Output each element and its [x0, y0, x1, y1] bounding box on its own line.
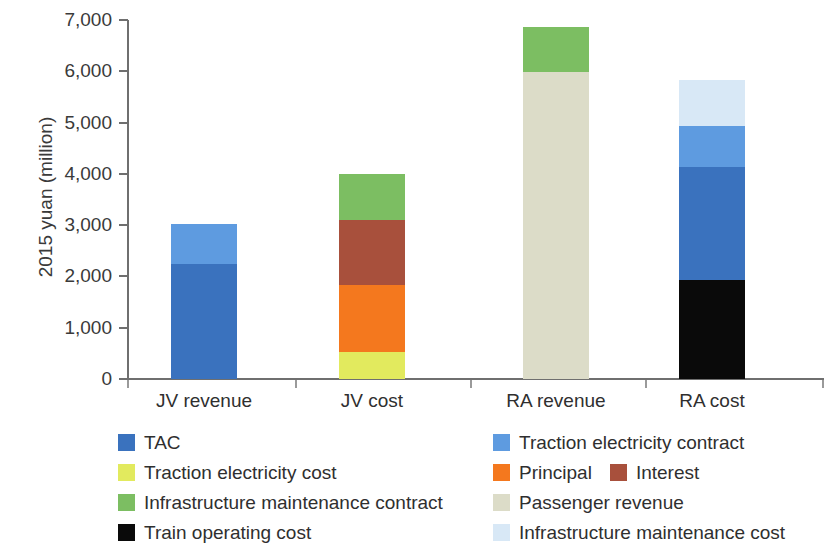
- legend-row-right: PrincipalInterest: [493, 458, 717, 487]
- legend-label: Traction electricity contract: [519, 433, 744, 452]
- legend-entry-traction-electricity-cost[interactable]: Traction electricity cost: [118, 463, 337, 482]
- legend-label: Train operating cost: [144, 523, 311, 542]
- y-tick-label: 3,000: [2, 215, 112, 234]
- x-tick-mark: [645, 380, 647, 388]
- bar-segment-infrastructure-maintenance-contract[interactable]: [339, 174, 405, 220]
- plot-area: 01,0002,0003,0004,0005,0006,0007,000 JV …: [0, 0, 824, 390]
- bar-stack-ra-revenue[interactable]: [523, 27, 589, 379]
- legend-entry-infrastructure-maintenance-contract[interactable]: Infrastructure maintenance contract: [118, 493, 443, 512]
- legend-entry-principal[interactable]: Principal: [493, 463, 592, 482]
- y-tick-label: 4,000: [2, 164, 112, 183]
- bar-stack-jv-revenue[interactable]: [171, 224, 237, 379]
- y-tick-label: 7,000: [2, 10, 112, 29]
- y-tick-label: 0: [2, 369, 112, 388]
- bar-segment-infrastructure-maintenance-cost[interactable]: [679, 80, 745, 126]
- y-tick-mark: [119, 19, 128, 21]
- legend-row-left: TAC: [118, 428, 199, 457]
- legend-swatch-icon: [493, 464, 510, 481]
- x-tick-mark: [295, 380, 297, 388]
- stacked-bar-chart: 2015 yuan (million) 01,0002,0003,0004,00…: [0, 0, 824, 551]
- legend-row-left: Traction electricity cost: [118, 458, 355, 487]
- x-tick-label-ra-cost: RA cost: [627, 390, 797, 412]
- legend-label: Infrastructure maintenance contract: [144, 493, 443, 512]
- bar-segment-tac[interactable]: [171, 264, 237, 379]
- legend-swatch-icon: [118, 524, 135, 541]
- legend-label: Interest: [636, 463, 699, 482]
- legend-row-right: Passenger revenue: [493, 488, 702, 517]
- legend-swatch-icon: [493, 524, 510, 541]
- y-tick-label: 6,000: [2, 61, 112, 80]
- y-tick-label: 1,000: [2, 318, 112, 337]
- y-tick-mark: [119, 70, 128, 72]
- y-tick-mark: [119, 224, 128, 226]
- x-tick-mark: [127, 380, 129, 388]
- legend-row-left: Train operating cost: [118, 518, 329, 547]
- legend-entry-infrastructure-maintenance-cost[interactable]: Infrastructure maintenance cost: [493, 523, 785, 542]
- legend-swatch-icon: [493, 434, 510, 451]
- legend-swatch-icon: [610, 464, 627, 481]
- legend-swatch-icon: [118, 464, 135, 481]
- legend-label: Passenger revenue: [519, 493, 684, 512]
- y-tick-mark: [119, 327, 128, 329]
- bar-segment-tac[interactable]: [679, 167, 745, 280]
- legend-label: TAC: [144, 433, 181, 452]
- y-tick-label: 5,000: [2, 113, 112, 132]
- bar-segment-interest[interactable]: [339, 220, 405, 285]
- legend-label: Principal: [519, 463, 592, 482]
- legend-entry-tac[interactable]: TAC: [118, 433, 181, 452]
- bar-stack-ra-cost[interactable]: [679, 80, 745, 379]
- y-tick-mark: [119, 275, 128, 277]
- y-tick-mark: [119, 122, 128, 124]
- legend-entry-traction-electricity-contract[interactable]: Traction electricity contract: [493, 433, 744, 452]
- legend-swatch-icon: [118, 494, 135, 511]
- bar-segment-traction-electricity-contract[interactable]: [679, 126, 745, 167]
- legend-row-left: Infrastructure maintenance contract: [118, 488, 461, 517]
- x-tick-mark: [470, 380, 472, 388]
- legend-row-right: Traction electricity contract: [493, 428, 762, 457]
- legend-swatch-icon: [118, 434, 135, 451]
- y-tick-label: 2,000: [2, 266, 112, 285]
- chart-legend: TACTraction electricity contractTraction…: [0, 428, 824, 551]
- bar-segment-traction-electricity-cost[interactable]: [339, 352, 405, 379]
- legend-row-right: Infrastructure maintenance cost: [493, 518, 803, 547]
- legend-entry-train-operating-cost[interactable]: Train operating cost: [118, 523, 311, 542]
- legend-entry-interest[interactable]: Interest: [610, 463, 699, 482]
- bar-segment-traction-electricity-contract[interactable]: [171, 224, 237, 264]
- bar-segment-passenger-revenue[interactable]: [523, 72, 589, 379]
- bar-stack-jv-cost[interactable]: [339, 174, 405, 379]
- y-tick-mark: [119, 173, 128, 175]
- x-tick-label-jv-cost: JV cost: [287, 390, 457, 412]
- x-tick-label-ra-revenue: RA revenue: [471, 390, 641, 412]
- legend-swatch-icon: [493, 494, 510, 511]
- bar-segment-infrastructure-maintenance-contract[interactable]: [523, 27, 589, 72]
- legend-entry-passenger-revenue[interactable]: Passenger revenue: [493, 493, 684, 512]
- bar-segment-principal[interactable]: [339, 285, 405, 353]
- legend-label: Infrastructure maintenance cost: [519, 523, 785, 542]
- bar-segment-train-operating-cost[interactable]: [679, 280, 745, 379]
- legend-label: Traction electricity cost: [144, 463, 337, 482]
- x-tick-label-jv-revenue: JV revenue: [119, 390, 289, 412]
